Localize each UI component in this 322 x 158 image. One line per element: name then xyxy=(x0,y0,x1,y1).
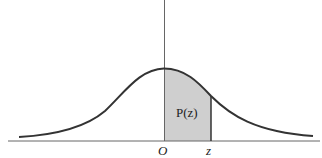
origin-label: O xyxy=(158,143,168,158)
z-label: z xyxy=(205,143,211,158)
shaded-region-label: P(z) xyxy=(176,105,198,120)
normal-curve-diagram: P(z) O z xyxy=(0,0,322,158)
diagram-canvas: P(z) O z xyxy=(0,0,322,158)
